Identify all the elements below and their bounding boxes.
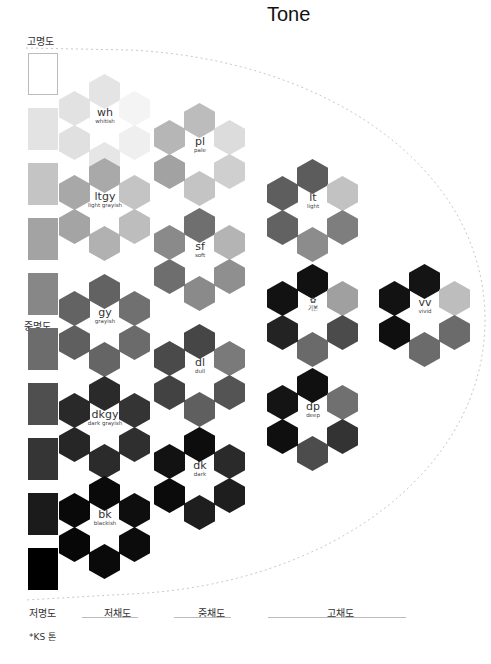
chroma-high-underline xyxy=(268,617,406,618)
hex-bottom-icon xyxy=(89,342,120,377)
hex-bottom-icon xyxy=(297,436,328,471)
chroma-low-underline xyxy=(82,617,138,618)
lightness-swatch xyxy=(28,548,58,590)
tone-name: dark grayish xyxy=(57,421,153,427)
hex-top-icon xyxy=(184,427,215,462)
tone-cluster-dkgy: dkgydark grayish xyxy=(57,382,153,478)
footnote: *KS 톤 xyxy=(29,630,56,643)
lightness-swatch xyxy=(28,53,58,95)
hex-lower-right-icon xyxy=(214,154,245,189)
lightness-swatch xyxy=(28,218,58,260)
hex-bottom-icon xyxy=(184,276,215,311)
hex-top-icon xyxy=(184,103,215,138)
hex-lower-right-icon xyxy=(119,527,150,562)
tone-label: ltgylight grayish xyxy=(57,191,153,209)
hex-top-icon xyxy=(297,264,328,299)
tone-label: ✿기본 xyxy=(265,297,361,312)
lightness-swatch xyxy=(28,493,58,535)
lightness-high-label: 고명도 xyxy=(27,33,54,48)
tone-code: pl xyxy=(152,136,248,147)
hex-lower-left-icon xyxy=(267,419,298,454)
lightness-swatch xyxy=(28,273,58,315)
lightness-swatch xyxy=(28,328,58,370)
hex-bottom-icon xyxy=(89,544,120,579)
hex-top-icon xyxy=(89,74,120,109)
chroma-mid-underline xyxy=(174,617,231,618)
tone-name: blackish xyxy=(57,521,153,527)
tone-name: vivid xyxy=(377,309,473,315)
tone-code: ltgy xyxy=(57,191,153,202)
hex-lower-left-icon xyxy=(154,259,185,294)
tone-name: grayish xyxy=(57,319,153,325)
tone-name: deep xyxy=(265,413,361,419)
tone-label: bkblackish xyxy=(57,509,153,527)
tone-cluster-dl: dldull xyxy=(152,330,248,426)
hex-bottom-icon xyxy=(184,495,215,530)
tone-code: vv xyxy=(377,297,473,308)
tone-label: plpale xyxy=(152,136,248,154)
tone-cluster-dk: dkdark xyxy=(152,433,248,529)
hex-lower-right-icon xyxy=(119,325,150,360)
lightness-swatch xyxy=(28,383,58,425)
hex-bottom-icon xyxy=(184,392,215,427)
hex-top-icon xyxy=(184,324,215,359)
tone-code: dp xyxy=(265,401,361,412)
tone-cluster-pl: plpale xyxy=(152,109,248,205)
hex-lower-left-icon xyxy=(59,209,90,244)
tone-cluster-basic: ✿기본 xyxy=(265,270,361,366)
lightness-swatch xyxy=(28,108,58,150)
tone-name: soft xyxy=(152,253,248,259)
hex-lower-right-icon xyxy=(327,419,358,454)
hex-bottom-icon xyxy=(297,227,328,262)
tone-label: dldull xyxy=(152,357,248,375)
tone-code: bk xyxy=(57,509,153,520)
hex-bottom-icon xyxy=(409,332,440,367)
hex-bottom-icon xyxy=(297,332,328,367)
hex-lower-left-icon xyxy=(154,154,185,189)
tone-code: dkgy xyxy=(57,409,153,420)
tone-label: ltlight xyxy=(265,192,361,210)
hex-lower-left-icon xyxy=(267,210,298,245)
lightness-low-label: 저명도 xyxy=(29,605,56,620)
hex-lower-right-icon xyxy=(214,478,245,513)
tone-label: dkdark xyxy=(152,460,248,478)
tone-name: dull xyxy=(152,369,248,375)
hex-top-icon xyxy=(89,476,120,511)
hex-lower-right-icon xyxy=(119,427,150,462)
hex-bottom-icon xyxy=(89,444,120,479)
tone-code: gy xyxy=(57,307,153,318)
hex-lower-right-icon xyxy=(214,375,245,410)
tone-label: whwhitish xyxy=(57,107,153,125)
hex-bottom-icon xyxy=(184,171,215,206)
hex-lower-left-icon xyxy=(59,125,90,160)
tone-cluster-bk: bkblackish xyxy=(57,482,153,578)
hex-top-icon xyxy=(89,158,120,193)
tone-label: vvvivid xyxy=(377,297,473,315)
tone-code: wh xyxy=(57,107,153,118)
hex-lower-right-icon xyxy=(327,210,358,245)
tone-cluster-dp: dpdeep xyxy=(265,374,361,470)
hex-lower-left-icon xyxy=(59,527,90,562)
hex-bottom-icon xyxy=(89,226,120,261)
tone-name: dark xyxy=(152,472,248,478)
tone-cluster-ltgy: ltgylight grayish xyxy=(57,164,153,260)
hex-lower-right-icon xyxy=(119,125,150,160)
hex-top-icon xyxy=(409,264,440,299)
hex-lower-right-icon xyxy=(327,315,358,350)
hex-lower-left-icon xyxy=(267,315,298,350)
hex-top-icon xyxy=(89,274,120,309)
hex-lower-left-icon xyxy=(59,325,90,360)
tone-code: dk xyxy=(152,460,248,471)
tone-cluster-vv: vvvivid xyxy=(377,270,473,366)
hex-top-icon xyxy=(89,376,120,411)
flower-icon: ✿ xyxy=(265,297,361,305)
lightness-swatch xyxy=(28,163,58,205)
tone-label: dkgydark grayish xyxy=(57,409,153,427)
tone-code: dl xyxy=(152,357,248,368)
tone-code: lt xyxy=(265,192,361,203)
tone-name: whitish xyxy=(57,119,153,125)
page-title: Tone xyxy=(267,3,310,26)
hex-top-icon xyxy=(184,208,215,243)
tone-code: sf xyxy=(152,241,248,252)
tone-cluster-sf: sfsoft xyxy=(152,214,248,310)
